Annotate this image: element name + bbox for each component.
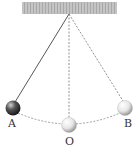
pendulum-diagram xyxy=(0,0,137,151)
ball-a xyxy=(6,101,21,116)
string-to-b xyxy=(69,14,123,101)
label-b: B xyxy=(124,118,132,129)
string-to-a xyxy=(15,14,69,102)
ceiling-support xyxy=(22,2,117,14)
ball-b xyxy=(118,101,133,116)
label-a: A xyxy=(8,118,16,129)
label-o: O xyxy=(65,136,74,147)
ball-o xyxy=(62,118,77,133)
